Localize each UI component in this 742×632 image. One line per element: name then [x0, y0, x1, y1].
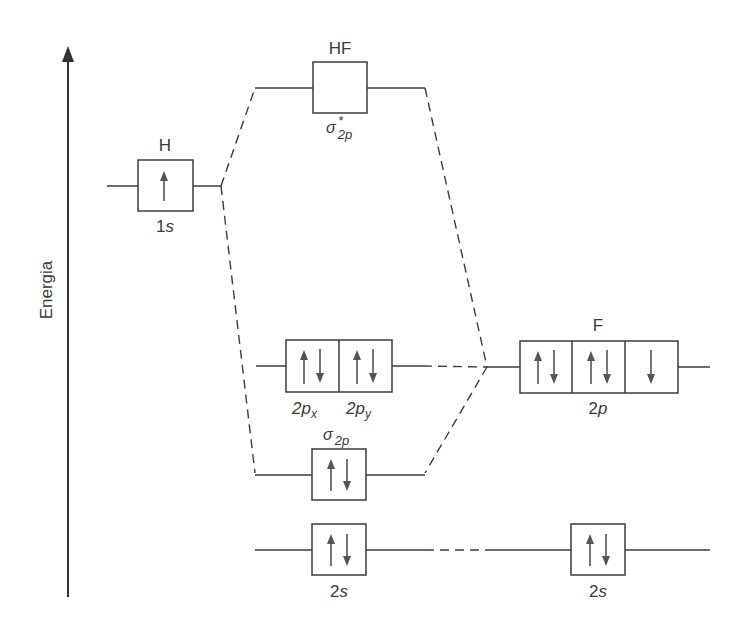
sigma-2p-orbital: [255, 449, 425, 500]
energy-axis: Energia: [37, 46, 74, 597]
nonbonding-2p-orbitals: [256, 340, 423, 392]
hf-label: HF: [329, 39, 352, 58]
f-2p-orbitals: [487, 341, 710, 393]
sigma-star-2p-orbital: [255, 62, 425, 113]
px-label: 2px: [291, 399, 318, 421]
f-atom-label: F: [593, 316, 603, 335]
f-2p-label: 2p: [589, 399, 608, 418]
sigma-star-asterisk: *: [338, 113, 343, 128]
mol-2s-orbital: [255, 524, 425, 575]
h-atom-label: H: [159, 136, 171, 155]
mol-2s-label: 2s: [330, 582, 348, 601]
py-label: 2py: [345, 399, 372, 421]
f-2s-label: 2s: [589, 582, 607, 601]
h-1s-label: 1s: [156, 217, 174, 236]
f-2s-orbital: [488, 524, 710, 575]
sigma-2p-label: σ2p: [323, 426, 349, 448]
mo-diagram: Energia H 1s HF σ2p *: [0, 0, 742, 632]
axis-label: Energia: [37, 260, 56, 319]
axis-arrowhead-icon: [62, 46, 74, 62]
